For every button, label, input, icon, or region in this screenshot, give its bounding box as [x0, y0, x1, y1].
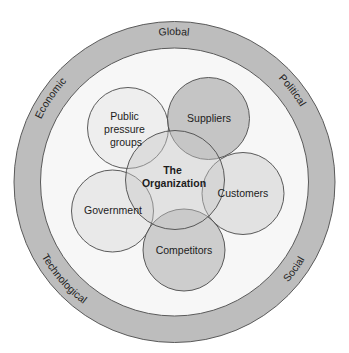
label-government: Government [84, 204, 142, 216]
label-customers: Customers [218, 187, 269, 199]
stakeholder-environment-diagram: Global Economic Political Technological … [0, 0, 349, 353]
label-public-pressure-groups: Public pressure groups [104, 110, 148, 148]
ring-label-global: Global [158, 25, 190, 38]
label-competitors: Competitors [156, 244, 213, 256]
label-suppliers: Suppliers [187, 112, 231, 124]
